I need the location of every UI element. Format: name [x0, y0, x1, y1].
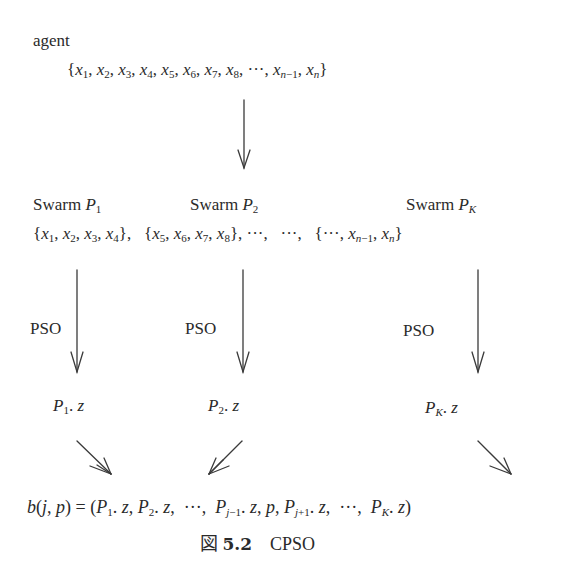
swarm-label-2: Swarm P2 — [190, 195, 258, 219]
diag-arrow-k — [478, 441, 511, 474]
swarm-subset-row: {x1, x2, x3, x4}, {x5, x6, x7, x8}, ···,… — [33, 224, 403, 248]
diag-arrow-2 — [209, 441, 242, 474]
diag-arrow-1 — [77, 441, 111, 474]
down-arrow-pso-2 — [237, 270, 249, 372]
down-arrow-pso-1 — [71, 270, 83, 372]
result-2: P2. z — [208, 396, 239, 420]
swarm-label-k: Swarm PK — [406, 195, 476, 219]
swarm-label-1: Swarm P1 — [33, 195, 101, 219]
result-1: P1. z — [53, 396, 84, 420]
down-arrow-pso-k — [472, 270, 484, 372]
figure-caption: 図 5.2 CPSO — [200, 534, 315, 554]
pso-label-1: PSO — [30, 319, 61, 339]
arrows-layer — [0, 0, 561, 569]
context-vector-equation: b(j, p) = (P1. z, P2. z, ···, Pj−1. z, p… — [27, 497, 411, 522]
agent-vector: {x1, x2, x3, x4, x5, x6, x7, x8, ···, xn… — [67, 60, 328, 84]
pso-label-k: PSO — [403, 321, 434, 341]
down-arrow-main — [238, 100, 250, 168]
pso-label-2: PSO — [185, 319, 216, 339]
agent-label: agent — [33, 31, 70, 51]
result-k: PK. z — [425, 398, 458, 422]
